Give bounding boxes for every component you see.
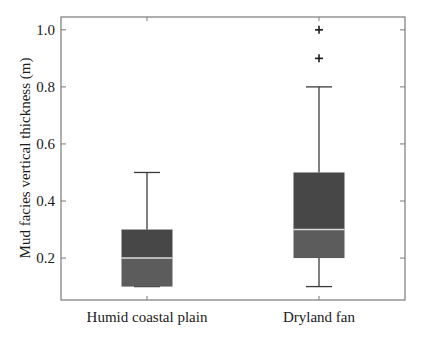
box-plot: 0.20.40.60.81.0 Humid coastal plainDryla… [0, 0, 422, 342]
x-tick-label: Dryland fan [283, 309, 356, 325]
plot-frame [61, 17, 405, 300]
box-upper-half [294, 172, 345, 229]
outlier-marker [315, 26, 323, 34]
box-lower-half [294, 230, 345, 259]
y-axis-label: Mud facies vertical thickness (m) [17, 58, 34, 259]
box-humid-coastal-plain [122, 172, 173, 286]
y-tick-label: 0.2 [36, 250, 55, 266]
y-tick-label: 0.4 [36, 193, 55, 209]
box-lower-half [122, 258, 173, 287]
boxes [122, 26, 345, 287]
box-upper-half [122, 230, 173, 259]
y-tick-label: 1.0 [36, 22, 55, 38]
x-tick-label: Humid coastal plain [87, 309, 208, 325]
outlier-marker [315, 54, 323, 62]
y-tick-label: 0.8 [36, 79, 55, 95]
plot-area-border [61, 17, 405, 300]
y-tick-label: 0.6 [36, 136, 55, 152]
y-axis-ticks: 0.20.40.60.81.0 [36, 22, 405, 266]
box-dryland-fan [294, 26, 345, 287]
